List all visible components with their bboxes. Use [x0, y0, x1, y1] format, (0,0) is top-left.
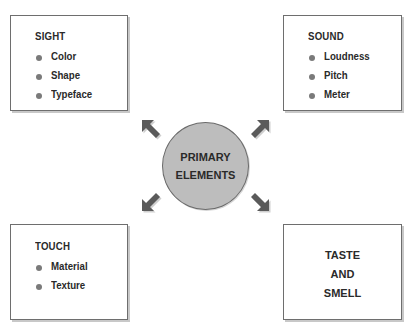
touch-item-material: Material	[51, 260, 88, 272]
sight-item-shape: Shape	[51, 69, 80, 81]
arrow-up-left-icon	[140, 118, 162, 140]
bullet-icon	[36, 265, 42, 271]
sound-box: SOUND Loudness Pitch Meter	[283, 15, 402, 111]
sight-item-typeface: Typeface	[51, 88, 92, 100]
bullet-icon	[309, 55, 315, 61]
center-label-line-1: PRIMARY	[163, 148, 248, 166]
bullet-icon	[36, 93, 42, 99]
arrow-down-left-icon	[140, 191, 162, 213]
bullet-icon	[36, 74, 42, 80]
touch-item-texture: Texture	[51, 279, 85, 291]
sight-box: SIGHT Color Shape Typeface	[10, 15, 128, 111]
sound-item-pitch: Pitch	[324, 69, 348, 81]
center-label-line-2: ELEMENTS	[163, 166, 248, 184]
bullet-icon	[36, 55, 42, 61]
touch-title: TOUCH	[35, 240, 70, 252]
sound-item-meter: Meter	[324, 88, 350, 100]
sound-title: SOUND	[308, 30, 344, 42]
taste-smell-line-2: AND	[284, 268, 401, 280]
taste-smell-box: TASTE AND SMELL	[283, 224, 402, 320]
bullet-icon	[309, 74, 315, 80]
sight-item-color: Color	[51, 50, 76, 62]
sound-item-loudness: Loudness	[324, 50, 370, 62]
primary-elements-circle: PRIMARY ELEMENTS	[162, 122, 249, 210]
taste-smell-line-1: TASTE	[284, 249, 401, 261]
taste-smell-line-3: SMELL	[284, 287, 401, 299]
touch-box: TOUCH Material Texture	[10, 224, 128, 320]
arrow-up-right-icon	[249, 118, 271, 140]
arrow-down-right-icon	[249, 191, 271, 213]
bullet-icon	[309, 93, 315, 99]
sight-title: SIGHT	[35, 30, 65, 42]
bullet-icon	[36, 284, 42, 290]
